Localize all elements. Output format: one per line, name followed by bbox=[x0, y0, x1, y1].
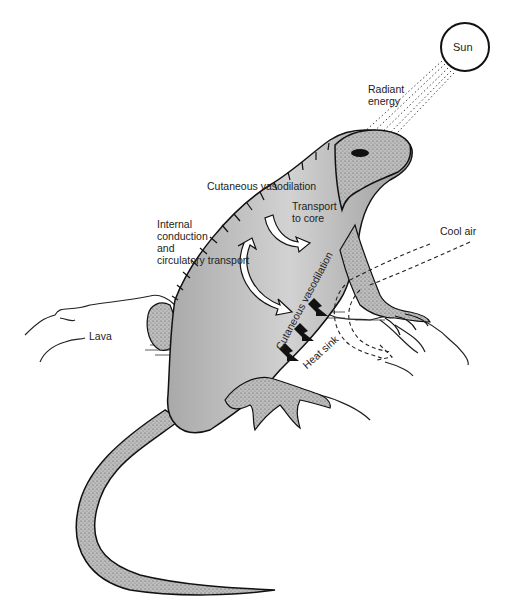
iguana-thermoregulation-diagram: Sun Radiant energy Cutaneous vasodilatio… bbox=[0, 0, 511, 609]
radiant-energy-label: Radiant energy bbox=[368, 83, 404, 107]
iguana-back-leg bbox=[225, 377, 330, 430]
cool-air-label: Cool air bbox=[440, 225, 476, 237]
iguana-eye bbox=[351, 149, 369, 157]
internal-conduction-label: Internal conduction and circulatory tran… bbox=[157, 218, 249, 266]
iguana-tail bbox=[76, 410, 275, 595]
transport-to-core-label: Transport to core bbox=[292, 200, 337, 224]
cutaneous-vasodilation-top-label: Cutaneous vasodilation bbox=[207, 180, 316, 192]
iguana-front-leg bbox=[340, 225, 430, 322]
lava-label: Lava bbox=[89, 330, 112, 342]
diagram-illustration bbox=[0, 0, 511, 609]
sun-label: Sun bbox=[453, 41, 473, 53]
